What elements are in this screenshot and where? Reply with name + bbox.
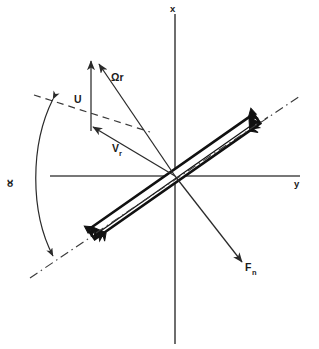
angle-arc-alpha <box>36 99 53 256</box>
svg-text:V: V <box>112 142 119 154</box>
omega-r-vector-label: Ωr <box>111 71 124 83</box>
f-n-vector-label: F n <box>245 261 257 277</box>
y-axis-label: y <box>294 178 300 189</box>
vector-f-n <box>175 176 242 262</box>
diagram-canvas: x y ∝ U Ωr V r F n <box>0 0 319 349</box>
angle-arc-path <box>36 99 53 256</box>
vector-f-n-shaft <box>175 176 242 262</box>
alpha-angle-label: ∝ <box>2 179 17 188</box>
v-r-vector-label: V r <box>112 142 122 158</box>
figure-container: x y ∝ U Ωr V r F n <box>0 0 319 349</box>
x-axis-label: x <box>170 3 176 14</box>
svg-text:n: n <box>252 268 257 277</box>
svg-text:F: F <box>245 261 252 273</box>
u-vector-label: U <box>74 93 82 105</box>
svg-text:r: r <box>119 149 122 158</box>
vector-v-r-shaft <box>93 127 175 176</box>
vector-v-r <box>93 127 175 176</box>
